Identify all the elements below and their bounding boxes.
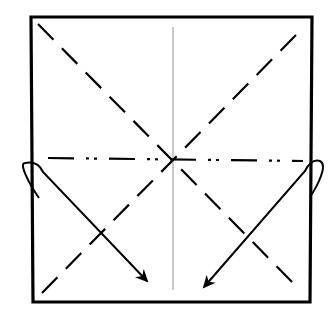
origami-diagram xyxy=(0,0,330,318)
